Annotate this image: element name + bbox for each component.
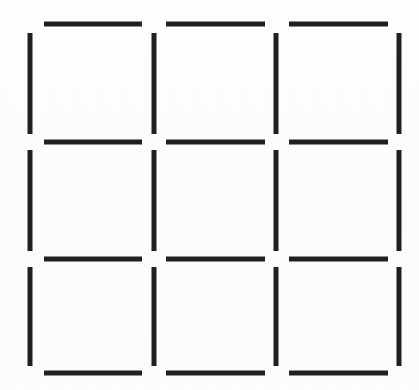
matchstick-grid [0,0,419,390]
horizontal-segment-group [44,24,388,373]
figure-canvas [0,0,419,390]
vertical-segment-group [30,33,399,366]
